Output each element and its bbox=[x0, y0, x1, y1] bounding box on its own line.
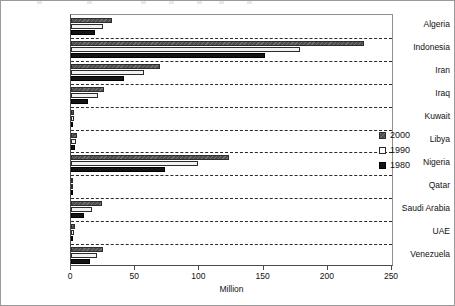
x-axis-tick bbox=[198, 266, 199, 270]
bar-algeria-2000 bbox=[71, 18, 112, 23]
legend-swatch-2000-icon bbox=[379, 132, 386, 139]
legend-item-1980[interactable]: 1980 bbox=[379, 159, 449, 171]
bar-nigeria-1980 bbox=[71, 167, 165, 172]
bar-libya-2000 bbox=[71, 133, 77, 138]
legend-swatch-1990-icon bbox=[379, 147, 386, 154]
x-axis-tick bbox=[391, 266, 392, 270]
y-axis-label-iran: Iran bbox=[386, 66, 454, 75]
legend-swatch-1980-icon bbox=[379, 162, 386, 169]
gridline bbox=[71, 107, 392, 108]
bar-algeria-1990 bbox=[71, 24, 103, 29]
bar-iran-1990 bbox=[71, 70, 144, 75]
x-axis-tick-label-50: 50 bbox=[129, 271, 138, 281]
legend-label-1990: 1990 bbox=[390, 146, 410, 155]
x-axis-tick-label-250: 250 bbox=[384, 271, 398, 281]
y-axis-label-uae: UAE bbox=[386, 227, 454, 236]
bar-nigeria-1990 bbox=[71, 161, 198, 166]
gridline bbox=[71, 221, 392, 222]
x-axis-tick-label-150: 150 bbox=[256, 271, 270, 281]
bar-venezuela-1990 bbox=[71, 253, 97, 258]
y-axis-label-algeria: Algeria bbox=[386, 20, 454, 29]
x-axis-tick-label-200: 200 bbox=[320, 271, 334, 281]
bar-iraq-1980 bbox=[71, 99, 88, 104]
y-axis-label-venezuela: Venezuela bbox=[386, 250, 454, 259]
y-axis-label-iraq: Iraq bbox=[386, 89, 454, 98]
bar-indonesia-2000 bbox=[71, 41, 364, 46]
bar-uae-1980 bbox=[71, 236, 73, 241]
bar-saudi-arabia-2000 bbox=[71, 201, 102, 206]
bar-qatar-1980 bbox=[71, 190, 73, 195]
bar-kuwait-1990 bbox=[71, 116, 74, 121]
bar-nigeria-2000 bbox=[71, 155, 229, 160]
gridline bbox=[71, 38, 392, 39]
bar-iran-1980 bbox=[71, 76, 124, 81]
x-axis-tick bbox=[134, 266, 135, 270]
x-axis-tick bbox=[70, 266, 71, 270]
legend-item-1990[interactable]: 1990 bbox=[379, 144, 449, 156]
bar-kuwait-2000 bbox=[71, 110, 74, 115]
gridline bbox=[71, 175, 392, 176]
gridline bbox=[71, 244, 392, 245]
gridline bbox=[71, 152, 392, 153]
x-axis-tick bbox=[327, 266, 328, 270]
legend-label-1980: 1980 bbox=[390, 161, 410, 170]
chart-figure: AlgeriaIndonesiaIranIraqKuwaitLibyaNiger… bbox=[0, 0, 455, 306]
bar-iraq-1990 bbox=[71, 93, 98, 98]
bar-saudi-arabia-1990 bbox=[71, 207, 92, 212]
x-axis-tick bbox=[263, 266, 264, 270]
x-axis-tick-label-0: 0 bbox=[68, 271, 73, 281]
bar-qatar-1990 bbox=[71, 184, 73, 189]
y-axis-label-saudi-arabia: Saudi Arabia bbox=[386, 204, 454, 213]
bar-qatar-2000 bbox=[71, 178, 73, 183]
bar-iraq-2000 bbox=[71, 87, 104, 92]
y-axis-label-indonesia: Indonesia bbox=[386, 43, 454, 52]
legend: 2000 1990 1980 bbox=[379, 129, 449, 174]
bar-indonesia-1980 bbox=[71, 53, 265, 58]
x-axis-title: Million bbox=[70, 284, 393, 294]
bar-kuwait-1980 bbox=[71, 122, 73, 127]
gridline bbox=[71, 61, 392, 62]
clipped-title-artifact bbox=[1, 1, 455, 6]
bar-venezuela-2000 bbox=[71, 247, 103, 252]
bar-uae-1990 bbox=[71, 230, 74, 235]
gridline bbox=[71, 130, 392, 131]
x-axis-tick-label-100: 100 bbox=[191, 271, 205, 281]
plot-area bbox=[70, 14, 393, 266]
legend-label-2000: 2000 bbox=[390, 131, 410, 140]
legend-item-2000[interactable]: 2000 bbox=[379, 129, 449, 141]
gridline bbox=[71, 198, 392, 199]
y-axis-label-kuwait: Kuwait bbox=[386, 112, 454, 121]
bar-saudi-arabia-1980 bbox=[71, 213, 84, 218]
bar-uae-2000 bbox=[71, 224, 75, 229]
y-axis-label-qatar: Qatar bbox=[386, 181, 454, 190]
bar-venezuela-1980 bbox=[71, 259, 90, 264]
bar-libya-1990 bbox=[71, 139, 76, 144]
bar-libya-1980 bbox=[71, 145, 75, 150]
bar-algeria-1980 bbox=[71, 30, 95, 35]
bar-indonesia-1990 bbox=[71, 47, 300, 52]
bar-iran-2000 bbox=[71, 64, 160, 69]
gridline bbox=[71, 84, 392, 85]
